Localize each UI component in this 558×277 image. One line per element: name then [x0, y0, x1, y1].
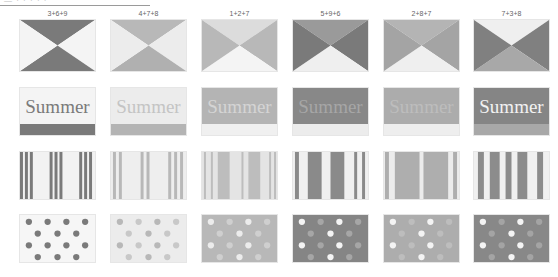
dot-swatch — [110, 214, 187, 263]
summer-bar — [474, 124, 549, 135]
summer-word: Summer — [20, 88, 95, 126]
summer-bar — [384, 124, 459, 135]
triangle-swatch — [292, 19, 369, 72]
combination-label: 3+6+9 — [19, 10, 96, 17]
summer-bar — [111, 124, 186, 135]
summer-word: Summer — [384, 88, 459, 126]
combination-label: 4+7+8 — [110, 10, 187, 17]
combination-label: 1+2+7 — [201, 10, 278, 17]
triangle-swatch — [110, 19, 187, 72]
header-rule — [0, 5, 150, 6]
summer-word: Summer — [202, 88, 277, 126]
stripe-swatch — [473, 151, 550, 200]
triangle-swatch — [383, 19, 460, 72]
stripe-swatch — [383, 151, 460, 200]
summer-text-swatch: Summer — [473, 87, 550, 136]
triangle-swatch — [201, 19, 278, 72]
stripe-swatch — [110, 151, 187, 200]
summer-text-swatch: Summer — [110, 87, 187, 136]
dot-swatch — [201, 214, 278, 263]
combination-label: 5+9+6 — [292, 10, 369, 17]
combination-label: 7+3+8 — [473, 10, 550, 17]
dot-swatch — [19, 214, 96, 263]
stripe-swatch — [201, 151, 278, 200]
dot-swatch — [292, 214, 369, 263]
summer-text-swatch: Summer — [201, 87, 278, 136]
triangle-swatch — [19, 19, 96, 72]
triangle-swatch — [473, 19, 550, 72]
combination-label: 2+8+7 — [383, 10, 460, 17]
summer-word: Summer — [111, 88, 186, 126]
summer-text-swatch: Summer — [383, 87, 460, 136]
header-cropped-text: — · · · · · — [4, 0, 47, 5]
stripe-swatch — [292, 151, 369, 200]
summer-bar — [20, 124, 95, 135]
summer-text-swatch: Summer — [292, 87, 369, 136]
summer-bar — [202, 124, 277, 135]
stripe-swatch — [19, 151, 96, 200]
summer-text-swatch: Summer — [19, 87, 96, 136]
dot-swatch — [383, 214, 460, 263]
summer-word: Summer — [293, 88, 368, 126]
dot-swatch — [473, 214, 550, 263]
summer-word: Summer — [474, 88, 549, 126]
summer-bar — [293, 124, 368, 135]
